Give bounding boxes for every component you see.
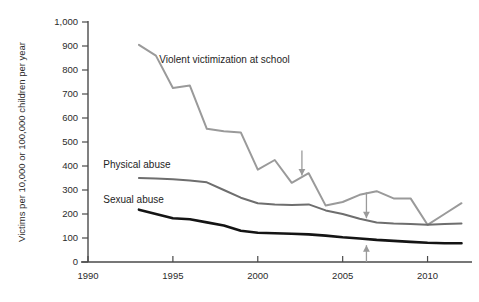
y-tick-label: 800 bbox=[62, 64, 78, 75]
series-line-0 bbox=[139, 45, 462, 225]
series-label-0: Violent victimization at school bbox=[159, 54, 289, 65]
arrow-2007-up-head bbox=[363, 245, 370, 252]
x-tick-label: 1995 bbox=[162, 270, 183, 281]
y-tick-label: 400 bbox=[62, 160, 78, 171]
arrow-2007-down-head bbox=[363, 212, 370, 219]
series-label-1: Physical abuse bbox=[103, 159, 171, 170]
x-tick-label: 2005 bbox=[332, 270, 353, 281]
y-tick-label: 600 bbox=[62, 112, 78, 123]
line-chart: Victims per 10,000 or 100,000 children p… bbox=[0, 0, 479, 302]
y-tick-label: 700 bbox=[62, 88, 78, 99]
y-axis-ticks: 01002003004005006007008009001,000 bbox=[54, 16, 88, 267]
x-tick-label: 2010 bbox=[417, 270, 438, 281]
series-line-2 bbox=[139, 210, 462, 244]
y-tick-label: 200 bbox=[62, 208, 78, 219]
y-tick-label: 1,000 bbox=[54, 16, 78, 27]
y-tick-label: 0 bbox=[73, 256, 78, 267]
x-axis-ticks: 19901995200020052010 bbox=[77, 256, 438, 281]
x-tick-label: 2000 bbox=[247, 270, 268, 281]
y-tick-label: 900 bbox=[62, 40, 78, 51]
y-tick-label: 500 bbox=[62, 136, 78, 147]
chart-container: Victims per 10,000 or 100,000 children p… bbox=[0, 0, 479, 302]
y-axis-title: Victims per 10,000 or 100,000 children p… bbox=[16, 42, 27, 242]
y-axis-title-text: Victims per 10,000 or 100,000 children p… bbox=[16, 42, 27, 242]
chart-series bbox=[139, 45, 462, 243]
y-tick-label: 300 bbox=[62, 184, 78, 195]
chart-annotations bbox=[299, 150, 370, 262]
series-label-2: Sexual abuse bbox=[103, 194, 164, 205]
x-tick-label: 1990 bbox=[77, 270, 98, 281]
y-tick-label: 100 bbox=[62, 232, 78, 243]
